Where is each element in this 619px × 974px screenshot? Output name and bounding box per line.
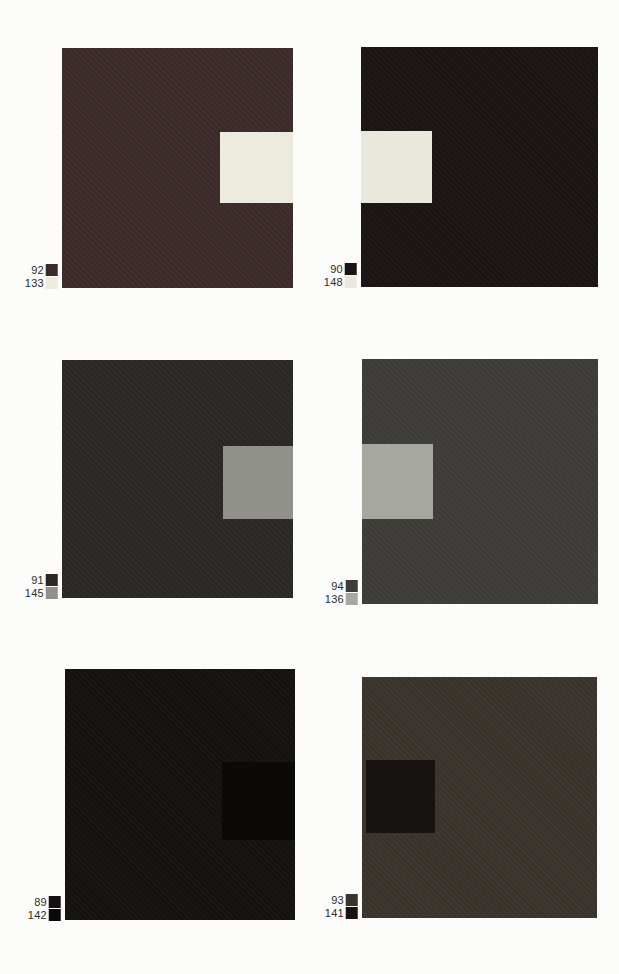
color-plate: 94 136 (362, 359, 598, 604)
ground-label-row: 94 (331, 580, 358, 592)
ground-color-swatch (46, 264, 58, 276)
plate-labels: 90 148 (324, 263, 357, 288)
plate-labels: 92 133 (25, 264, 58, 289)
ground-label-row: 93 (331, 894, 358, 906)
plate-inner-rect (362, 444, 433, 519)
figure-label-number: 145 (25, 587, 44, 599)
ground-label-number: 90 (330, 263, 343, 275)
ground-color-swatch (49, 896, 61, 908)
figure-color-swatch (46, 587, 58, 599)
figure-color-swatch (49, 909, 61, 921)
ground-label-number: 89 (34, 896, 47, 908)
ground-label-number: 94 (331, 580, 344, 592)
color-plate: 91 145 (62, 360, 293, 598)
plate-inner-rect (223, 446, 293, 519)
color-plate: 93 141 (362, 677, 597, 918)
figure-label-number: 141 (325, 907, 344, 919)
color-plate: 89 142 (65, 669, 295, 920)
plate-labels: 91 145 (25, 574, 58, 599)
plate-inner-rect (220, 132, 293, 203)
ground-color-swatch (345, 263, 357, 275)
figure-color-swatch (346, 593, 358, 605)
plate-inner-rect (366, 760, 435, 833)
figure-label-row: 133 (25, 277, 58, 289)
ground-color-swatch (46, 574, 58, 586)
ground-label-number: 92 (31, 264, 44, 276)
ground-color-swatch (346, 580, 358, 592)
figure-label-number: 136 (325, 593, 344, 605)
plate-labels: 93 141 (325, 894, 358, 919)
ground-color-swatch (346, 894, 358, 906)
figure-color-swatch (345, 276, 357, 288)
plate-labels: 94 136 (325, 580, 358, 605)
ground-label-number: 91 (31, 574, 44, 586)
figure-label-number: 133 (25, 277, 44, 289)
plate-inner-rect (222, 762, 295, 840)
figure-color-swatch (346, 907, 358, 919)
color-plate: 92 133 (62, 48, 293, 288)
figure-label-number: 148 (324, 276, 343, 288)
figure-label-row: 142 (28, 909, 61, 921)
ground-label-row: 90 (330, 263, 357, 275)
figure-label-number: 142 (28, 909, 47, 921)
plate-labels: 89 142 (28, 896, 61, 921)
figure-label-row: 145 (25, 587, 58, 599)
ground-label-row: 91 (31, 574, 58, 586)
ground-label-row: 92 (31, 264, 58, 276)
color-plate: 90 148 (361, 47, 598, 287)
plate-inner-rect (361, 131, 432, 203)
figure-label-row: 148 (324, 276, 357, 288)
figure-color-swatch (46, 277, 58, 289)
figure-label-row: 141 (325, 907, 358, 919)
scanned-book-page: { "page": { "background": "#fcfcfa", "de… (0, 0, 619, 974)
ground-label-row: 89 (34, 896, 61, 908)
figure-label-row: 136 (325, 593, 358, 605)
ground-label-number: 93 (331, 894, 344, 906)
